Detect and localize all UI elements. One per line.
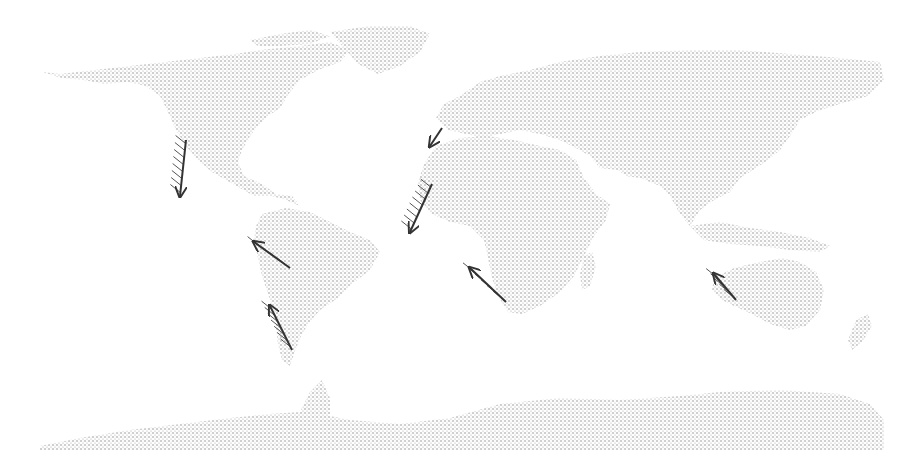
africa [418,136,610,314]
california-current-arrow-icon [170,136,186,197]
north-america [42,42,350,206]
south-america [254,208,380,366]
new-zealand [848,314,872,350]
antarctica [40,380,884,450]
world-map [0,0,921,476]
southeast-asia-islands [690,222,830,252]
canary-current-north-arrow-icon [430,128,442,146]
world-map-canvas [0,0,921,476]
land-masses [40,26,884,450]
arctic-islands [250,30,330,46]
